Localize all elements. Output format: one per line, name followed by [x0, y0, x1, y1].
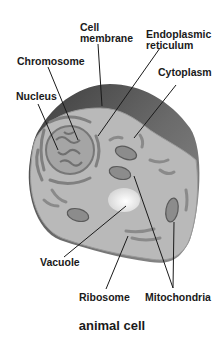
label-er-line2: reticulum [146, 40, 211, 51]
label-ribosome: Ribosome [79, 292, 130, 303]
animal-cell-diagram: Cell membrane Endoplasmic reticulum Chro… [0, 0, 224, 344]
label-mitochondria: Mitochondria [145, 292, 211, 303]
label-vacuole: Vacuole [40, 257, 80, 268]
label-cytoplasm: Cytoplasm [158, 67, 212, 78]
label-nucleus: Nucleus [16, 91, 57, 102]
label-cell-membrane-line2: membrane [80, 33, 133, 44]
label-cell-membrane: Cell membrane [80, 22, 133, 44]
label-endoplasmic-reticulum: Endoplasmic reticulum [146, 29, 211, 51]
diagram-caption: animal cell [0, 318, 224, 333]
label-chromosome: Chromosome [17, 56, 85, 67]
vacuole [108, 188, 140, 212]
